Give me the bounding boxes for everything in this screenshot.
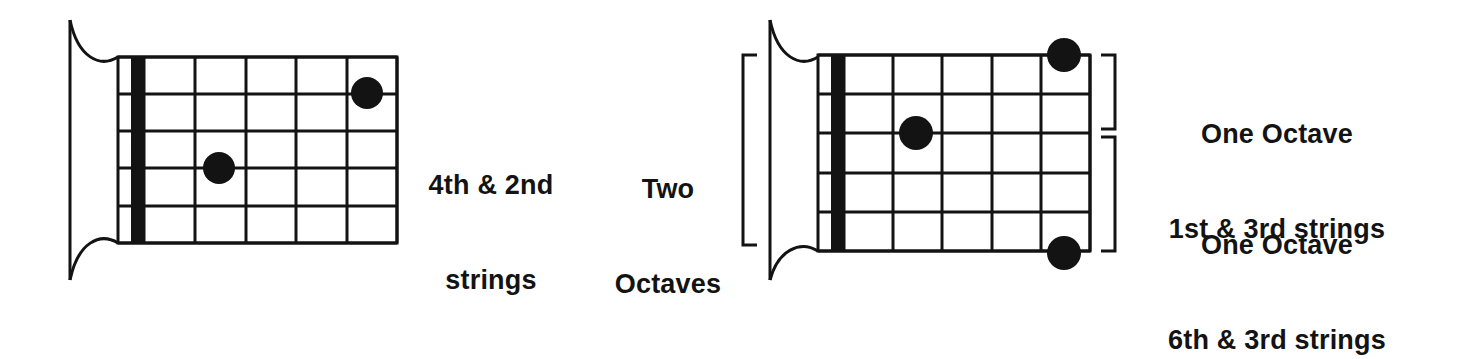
two-octaves-line-1: Two <box>594 174 742 206</box>
headstock-top-curve-2 <box>770 20 818 61</box>
fretboard-outline-2 <box>818 55 1090 251</box>
octave-dot-upper <box>351 77 383 109</box>
headstock-bottom-curve-2 <box>770 247 818 280</box>
lower-octave-line-1: One Octave <box>1124 230 1430 262</box>
caption-line-1: 4th & 2nd <box>398 170 584 202</box>
root-dot-bottom <box>1047 236 1081 270</box>
lower-octave-bracket <box>1101 137 1115 251</box>
caption-line-2: strings <box>398 265 584 297</box>
root-dot-middle <box>899 116 933 150</box>
diagram-two-octaves <box>743 20 1115 280</box>
two-octaves-bracket <box>743 55 757 245</box>
caption-one-octave-6th-3rd: One Octave 6th & 3rd strings <box>1124 166 1430 359</box>
diagram-one-octave <box>70 20 397 280</box>
caption-two-octaves: Two Octaves <box>594 110 742 359</box>
lower-octave-line-2: 6th & 3rd strings <box>1124 325 1430 357</box>
headstock-bottom-curve <box>70 239 118 280</box>
upper-octave-bracket <box>1101 55 1115 129</box>
octave-dot-top <box>1047 38 1081 72</box>
root-dot-lower <box>203 152 235 184</box>
caption-4th-and-2nd-strings: 4th & 2nd strings <box>398 106 584 359</box>
upper-octave-line-1: One Octave <box>1124 119 1430 151</box>
headstock-top-curve <box>70 20 118 61</box>
two-octaves-line-2: Octaves <box>594 269 742 301</box>
